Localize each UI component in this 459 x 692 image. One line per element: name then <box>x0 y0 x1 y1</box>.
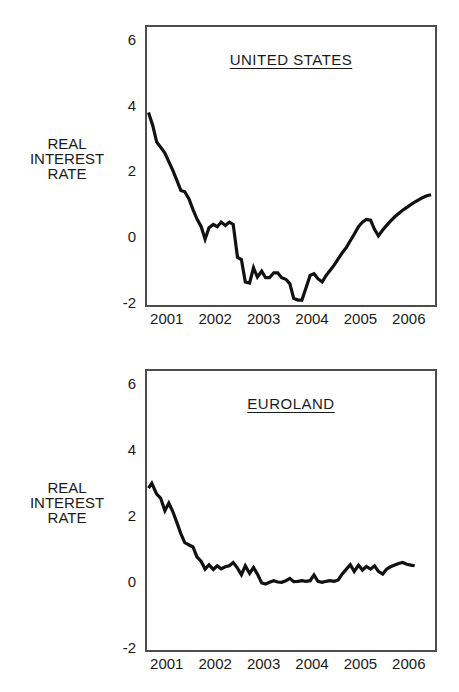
y-tick-label: 0 <box>92 572 136 592</box>
x-tick-label: 2005 <box>336 309 384 329</box>
x-tick-label: 2003 <box>240 654 288 674</box>
us-series-line <box>149 113 432 301</box>
y-tick-label: -2 <box>92 638 136 658</box>
x-tick-label: 2004 <box>288 654 336 674</box>
chart-united-states: REAL INTEREST RATE UNITED STATES 6420-2 … <box>0 0 459 344</box>
x-tick-label: 2006 <box>385 654 433 674</box>
y-tick-label: 0 <box>92 227 136 247</box>
line-chart-svg <box>147 371 435 650</box>
y-tick-label: 2 <box>92 506 136 526</box>
x-tick-label: 2001 <box>143 654 191 674</box>
x-tick-label: 2002 <box>191 654 239 674</box>
y-tick-label: 4 <box>92 440 136 460</box>
y-tick-label: -2 <box>92 293 136 313</box>
x-tick-label: 2005 <box>336 654 384 674</box>
chart-title: UNITED STATES <box>147 51 435 68</box>
figure-real-interest-rates: REAL INTEREST RATE UNITED STATES 6420-2 … <box>0 0 459 692</box>
y-tick-label: 2 <box>92 161 136 181</box>
euroland-series-line <box>149 483 415 584</box>
chart-title: EUROLAND <box>147 395 435 412</box>
x-tick-label: 2002 <box>191 309 239 329</box>
y-tick-label: 4 <box>92 96 136 116</box>
line-chart-svg <box>147 27 435 305</box>
x-tick-label: 2001 <box>143 309 191 329</box>
x-tick-label: 2003 <box>240 309 288 329</box>
x-tick-label: 2004 <box>288 309 336 329</box>
chart-euroland: REAL INTEREST RATE EUROLAND 6420-2 20012… <box>0 344 459 692</box>
y-tick-label: 6 <box>92 374 136 394</box>
x-tick-label: 2006 <box>385 309 433 329</box>
plot-area: EUROLAND <box>145 369 437 652</box>
y-tick-label: 6 <box>92 30 136 50</box>
plot-area: UNITED STATES <box>145 25 437 307</box>
